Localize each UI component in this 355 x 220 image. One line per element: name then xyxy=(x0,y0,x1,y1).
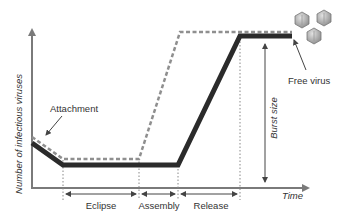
phase-label-assembly: Assembly xyxy=(138,200,179,211)
dashed-curve xyxy=(32,32,292,159)
attachment-label: Attachment xyxy=(50,103,98,114)
burst-size-annotation: Burst size xyxy=(265,44,279,182)
attachment-annotation: Attachment xyxy=(46,103,98,135)
phase-dividers xyxy=(63,38,240,200)
y-axis-label: Number of infectious viruses xyxy=(13,74,24,194)
free-virus-annotation: Free virus xyxy=(288,40,330,86)
phase-label-eclipse: Eclipse xyxy=(86,200,117,211)
free-virus-label: Free virus xyxy=(288,75,330,86)
burst-size-label: Burst size xyxy=(268,97,279,139)
solid-curve xyxy=(32,36,292,165)
growth-curve-diagram: Attachment Burst size Free virus Eclipse xyxy=(0,0,355,220)
virus-particle-icon xyxy=(295,10,331,44)
phase-label-release: Release xyxy=(194,200,229,211)
x-axis-label: Time xyxy=(282,190,303,201)
